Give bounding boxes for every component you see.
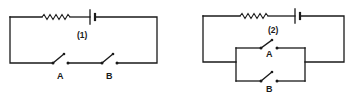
switch-b-label: B [266, 84, 273, 94]
switch-b [260, 71, 279, 83]
switch-a-label: A [57, 71, 64, 81]
circuit-1: (1) A B [10, 10, 157, 81]
resistor-icon [240, 14, 268, 19]
switch-b [101, 53, 119, 65]
circuit-label: (2) [268, 25, 279, 35]
switch-b-label: B [106, 71, 113, 81]
resistor-icon [42, 15, 70, 20]
wire [203, 16, 236, 62]
switch-a [260, 39, 279, 50]
wire [95, 17, 157, 63]
battery-icon [90, 10, 95, 24]
wire [300, 16, 344, 62]
switch-a-label: A [266, 49, 273, 59]
battery-icon [295, 9, 300, 23]
wire [10, 17, 52, 63]
circuit-2: (2) A B [203, 9, 344, 94]
switch-a [52, 53, 70, 65]
circuit-label: (1) [77, 30, 88, 40]
circuits-diagram: (1) A B [0, 0, 355, 95]
